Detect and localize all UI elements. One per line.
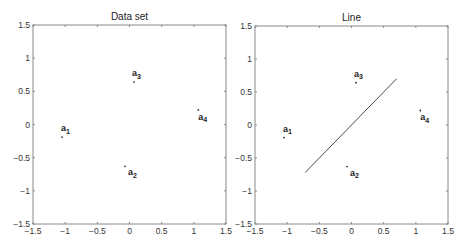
x-tick-label: −0.5 [89, 226, 106, 236]
x-tick-label: 1 [191, 226, 196, 236]
chart-title: Line [342, 12, 361, 23]
data-point [197, 109, 199, 111]
figure: Data set−1.5−1−0.500.511.51.510.50−0.5−1… [0, 0, 467, 246]
x-tick-label: 1 [413, 226, 418, 236]
y-tick-label: −1 [242, 186, 252, 196]
data-point [355, 82, 357, 84]
chart-line: Line−1.5−1−0.500.511.51.510.50−0.5−1−1.5… [235, 12, 454, 236]
y-tick-label: 1 [247, 54, 252, 64]
data-point [133, 81, 135, 83]
y-tick-label: 1.5 [18, 20, 30, 30]
x-tick-label: −1 [60, 226, 70, 236]
x-tick-label: −1 [282, 226, 292, 236]
x-tick-label: 1.5 [442, 226, 454, 236]
x-tick-label: 0 [127, 226, 132, 236]
y-tick-label: 0.5 [240, 87, 252, 97]
data-point [124, 165, 126, 167]
data-point [419, 110, 421, 112]
x-tick-label: 0.5 [156, 226, 168, 236]
y-tick-label: −0.5 [235, 153, 252, 163]
y-tick-label: −1.5 [235, 219, 252, 229]
chart-data-set: Data set−1.5−1−0.500.511.51.510.50−0.5−1… [13, 11, 232, 236]
y-tick-label: 0 [247, 120, 252, 130]
chart-title: Data set [111, 11, 148, 22]
y-tick-label: −1 [20, 186, 30, 196]
y-tick-label: 0.5 [18, 86, 30, 96]
x-tick-label: 0 [349, 226, 354, 236]
x-tick-label: 0.5 [378, 226, 390, 236]
x-tick-label: −0.5 [311, 226, 328, 236]
data-point [61, 136, 63, 138]
data-point [283, 137, 285, 139]
y-tick-label: 1 [25, 53, 30, 63]
data-point [346, 166, 348, 168]
y-tick-label: 0 [25, 120, 30, 130]
y-tick-label: −1.5 [13, 219, 30, 229]
y-tick-label: 1.5 [240, 21, 252, 31]
x-tick-label: 1.5 [220, 226, 232, 236]
y-tick-label: −0.5 [13, 153, 30, 163]
